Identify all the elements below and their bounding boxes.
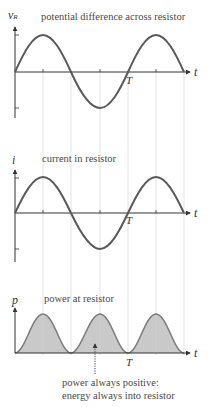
voltage-title: potential difference across resistor	[41, 12, 185, 23]
power-y-label: p	[12, 294, 18, 306]
diagram-canvas	[0, 0, 208, 407]
current-title: current in resistor	[42, 154, 116, 165]
power-t-label: t	[194, 347, 197, 359]
voltage-y-label: vR	[8, 9, 18, 21]
voltage-period-label: T	[126, 75, 132, 86]
voltage-y-subscript: R	[13, 13, 17, 21]
current-period-label: T	[126, 215, 132, 226]
power-title: power at resistor	[44, 294, 114, 305]
current-panel	[15, 170, 190, 262]
power-panel	[15, 308, 190, 374]
voltage-panel	[15, 27, 190, 118]
voltage-t-label: t	[194, 66, 197, 78]
power-annotation: power always positive: energy always int…	[62, 376, 175, 402]
current-y-label: i	[12, 154, 15, 166]
annotation-line-2: energy always into resistor	[62, 389, 175, 402]
current-t-label: t	[194, 207, 197, 219]
annotation-line-1: power always positive:	[62, 376, 175, 389]
power-fill	[15, 314, 184, 353]
power-period-label: T	[126, 357, 132, 368]
